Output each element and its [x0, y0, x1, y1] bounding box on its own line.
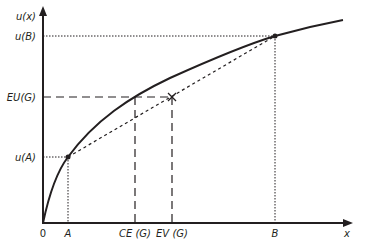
- x-tick-CE: CE (G): [119, 228, 151, 239]
- point-A: [66, 155, 71, 160]
- x-tick-B: B: [272, 228, 279, 239]
- point-B: [273, 34, 278, 39]
- x-axis-label: x: [343, 228, 350, 239]
- y-tick-uA: u(A): [15, 152, 36, 163]
- y-tick-EUG: EU(G): [7, 92, 36, 103]
- y-axis-label: u(x): [16, 11, 36, 22]
- y-tick-uB: u(B): [15, 31, 36, 42]
- origin-label: 0: [40, 228, 46, 239]
- x-axis-arrow-icon: [343, 219, 353, 227]
- utility-curve: [43, 20, 343, 223]
- utility-diagram: u(x) u(B) EU(G) u(A) 0 A CE (G) EV (G) B…: [0, 0, 366, 250]
- x-tick-EV: EV (G): [156, 228, 188, 239]
- y-axis-arrow-icon: [39, 6, 47, 16]
- x-tick-A: A: [64, 228, 72, 239]
